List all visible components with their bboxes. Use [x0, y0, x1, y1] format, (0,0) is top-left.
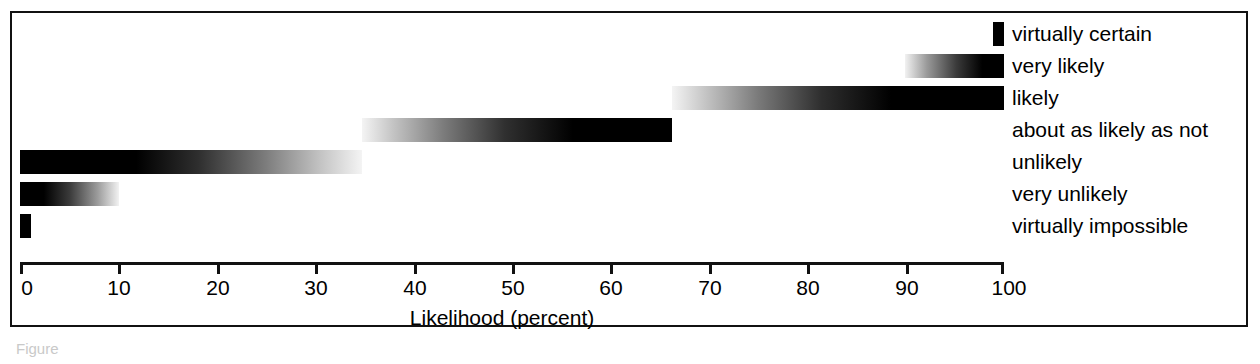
x-axis-tick-label: 30: [304, 276, 327, 300]
x-axis-tick-label: 0: [21, 276, 33, 300]
x-axis-tick-label: 90: [895, 276, 918, 300]
bar-label-very-likely: very likely: [1012, 54, 1104, 78]
x-axis-tick: [807, 262, 810, 274]
bar-label-virtually-certain: virtually certain: [1012, 22, 1152, 46]
bar-label-virtually-impossible: virtually impossible: [1012, 214, 1188, 238]
bar-label-about-as-likely-as-not: about as likely as not: [1012, 118, 1208, 142]
x-axis-tick: [118, 262, 121, 274]
x-axis-tick-label: 40: [403, 276, 426, 300]
x-axis-tick-label: 80: [796, 276, 819, 300]
bar-unlikely: [20, 150, 362, 174]
x-axis-tick: [610, 262, 613, 274]
x-axis-tick: [217, 262, 220, 274]
x-axis-tick-label: 20: [206, 276, 229, 300]
bar-label-very-unlikely: very unlikely: [1012, 182, 1128, 206]
x-axis-tick-label: 50: [501, 276, 524, 300]
likelihood-scale-chart: virtually certain very likely likely abo…: [0, 0, 1260, 364]
bar-label-likely: likely: [1012, 86, 1059, 110]
bar-very-unlikely: [20, 182, 119, 206]
x-axis-tick: [512, 262, 515, 274]
x-axis-tick: [414, 262, 417, 274]
x-axis-tick-label: 100: [991, 276, 1026, 300]
bar-very-likely: [905, 54, 1004, 78]
bar-virtually-impossible: [20, 214, 31, 238]
x-axis-tick-label: 70: [698, 276, 721, 300]
x-axis-tick: [315, 262, 318, 274]
x-axis-title: Likelihood (percent): [0, 306, 1004, 330]
figure-caption: Figure: [16, 340, 59, 357]
x-axis-tick: [709, 262, 712, 274]
bar-virtually-certain: [993, 22, 1004, 46]
figure: virtually certain very likely likely abo…: [0, 0, 1260, 364]
x-axis-tick: [906, 262, 909, 274]
bar-label-unlikely: unlikely: [1012, 150, 1082, 174]
bar-about-as-likely-as-not: [362, 118, 672, 142]
x-axis-tick-label: 60: [599, 276, 622, 300]
x-axis-tick: [1001, 262, 1004, 274]
x-axis-tick: [20, 262, 23, 274]
bar-likely: [672, 86, 1004, 110]
x-axis-tick-label: 10: [107, 276, 130, 300]
